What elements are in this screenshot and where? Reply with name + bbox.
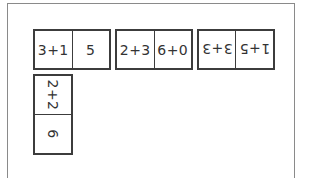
domino-3-left: 1+5 — [237, 31, 274, 68]
domino-2-left: 2+3 — [117, 31, 154, 68]
domino-2[interactable]: 2+3 6+0 — [115, 29, 193, 70]
domino-1-right: 5 — [72, 31, 110, 68]
domino-3[interactable]: 1+5 3+3 — [197, 29, 275, 70]
domino-2-right: 6+0 — [154, 31, 192, 68]
domino-4[interactable]: 2+2 6 — [33, 74, 73, 155]
domino-4-right: 6 — [35, 114, 71, 153]
domino-4-left: 2+2 — [35, 76, 71, 114]
domino-1[interactable]: 3+1 5 — [33, 29, 111, 70]
domino-1-left: 3+1 — [35, 31, 72, 68]
domino-3-right: 3+3 — [199, 31, 237, 68]
